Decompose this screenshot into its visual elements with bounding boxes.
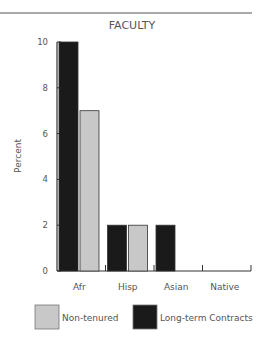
bar-afr-long-term-contracts (59, 42, 78, 271)
chart-title: FACULTY (109, 19, 156, 32)
y-tick-label: 10 (37, 37, 48, 47)
chart: FACULTY Percent 0246810 AfrHispAsianNati… (0, 0, 264, 347)
y-tick-label: 6 (43, 129, 48, 139)
y-axis-label: Percent (13, 139, 23, 173)
x-tick-label: Afr (73, 282, 86, 292)
x-tick-label: Asian (164, 282, 189, 292)
legend-label: Long-term Contracts (160, 313, 253, 323)
y-tick-label: 0 (43, 266, 48, 276)
bar-afr-non-tenured (80, 111, 99, 271)
x-tick-label: Native (210, 282, 240, 292)
x-tick-labels: AfrHispAsianNative (73, 282, 240, 292)
legend-label: Non-tenured (62, 313, 118, 323)
bar-hisp-long-term-contracts (108, 225, 127, 271)
y-tick-label: 4 (43, 174, 48, 184)
y-tick-label: 8 (43, 83, 48, 93)
bar-asian-long-term-contracts (156, 225, 175, 271)
legend-swatch (133, 305, 157, 329)
bar-hisp-non-tenured (129, 225, 148, 271)
y-tick-label: 2 (43, 220, 48, 230)
legend: Non-tenuredLong-term Contracts (35, 305, 253, 329)
bars (59, 42, 175, 271)
legend-swatch (35, 305, 59, 329)
x-tick-label: Hisp (118, 282, 138, 292)
